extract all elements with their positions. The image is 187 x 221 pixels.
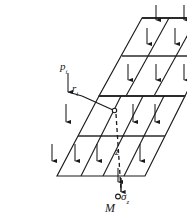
label-sigma-subscript: z [126, 198, 129, 205]
label-point-M: M [105, 202, 115, 214]
label-p-subscript: i [66, 68, 68, 75]
label-radius-ri: ri [72, 83, 78, 97]
lower-slab-col-divider-1b [81, 136, 101, 176]
field-point-marker-M [116, 194, 121, 199]
upper-slab-col-divider-2 [154, 18, 187, 96]
label-M-symbol: M [105, 201, 115, 215]
label-p-symbol: p [60, 60, 66, 72]
upper-slab-group [99, 18, 187, 96]
figure-container: pi ri z σz M [0, 0, 187, 221]
label-z-symbol: z [115, 146, 119, 157]
upper-slab-outline [99, 18, 187, 96]
label-load-intensity-pi: pi [60, 61, 67, 75]
surface-point-marker [112, 108, 116, 112]
lower-slab-group [57, 96, 185, 176]
label-depth-z: z [115, 147, 119, 157]
label-stress-sigma-z: σz [121, 191, 129, 205]
load-diagram-svg [0, 0, 187, 221]
lower-slab-col-divider-1 [101, 96, 121, 136]
label-r-subscript: i [76, 90, 78, 97]
